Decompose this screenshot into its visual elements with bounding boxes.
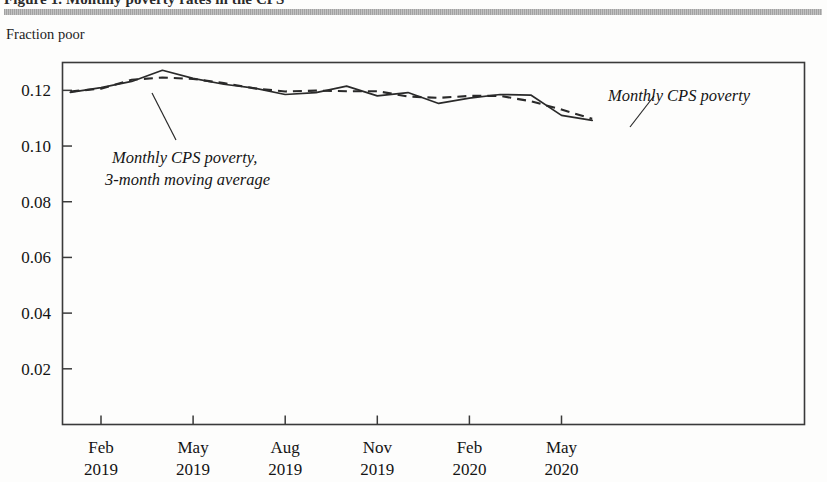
x-tick-label-month-May-2020: May [546, 438, 578, 457]
y-tick-label-0.02: 0.02 [21, 360, 51, 379]
x-tick-label-year-Feb-2020: 2020 [452, 460, 486, 479]
x-tick-label-month-Feb-2020: Feb [457, 438, 483, 457]
series-moving-average [70, 78, 592, 119]
x-axis-tick-labels: Feb2019May2019Aug2019Nov2019Feb2020May20… [84, 438, 579, 479]
leader-line-moving-average [152, 93, 176, 140]
annotation-monthly-line1: Monthly CPS poverty [607, 86, 751, 105]
x-tick-label-year-Feb-2019: 2019 [84, 460, 118, 479]
x-tick-label-year-May-2020: 2020 [545, 460, 579, 479]
figure-page: Figure 1. Monthly poverty rates in the C… [0, 0, 827, 482]
x-tick-label-year-Aug-2019: 2019 [268, 460, 302, 479]
y-tick-label-0.08: 0.08 [21, 193, 51, 212]
x-tick-label-month-May-2019: May [178, 438, 210, 457]
y-tick-label-0.12: 0.12 [21, 81, 51, 100]
annotation-moving-average: Monthly CPS poverty, 3-month moving aver… [104, 148, 270, 189]
x-tick-label-year-Nov-2019: 2019 [360, 460, 394, 479]
x-tick-label-month-Feb-2019: Feb [88, 438, 114, 457]
x-tick-label-month-Aug-2019: Aug [271, 438, 301, 457]
plot-frame [63, 63, 805, 425]
chart-canvas: 0.120.100.080.060.040.02 Feb2019May2019A… [0, 0, 827, 482]
y-tick-label-0.06: 0.06 [21, 248, 51, 267]
x-tick-label-year-May-2019: 2019 [176, 460, 210, 479]
y-axis-ticks [63, 90, 72, 368]
annotation-moving-average-line2: 3-month moving average [104, 170, 270, 189]
y-tick-label-0.10: 0.10 [21, 137, 51, 156]
x-tick-label-month-Nov-2019: Nov [363, 438, 393, 457]
y-axis-tick-labels: 0.120.100.080.060.040.02 [21, 81, 51, 378]
poverty-line-chart: 0.120.100.080.060.040.02 Feb2019May2019A… [0, 0, 827, 482]
annotation-moving-average-line1: Monthly CPS poverty, [111, 148, 257, 167]
y-tick-label-0.04: 0.04 [21, 304, 51, 323]
annotation-monthly: Monthly CPS poverty [607, 86, 751, 105]
x-axis-ticks [101, 416, 562, 425]
